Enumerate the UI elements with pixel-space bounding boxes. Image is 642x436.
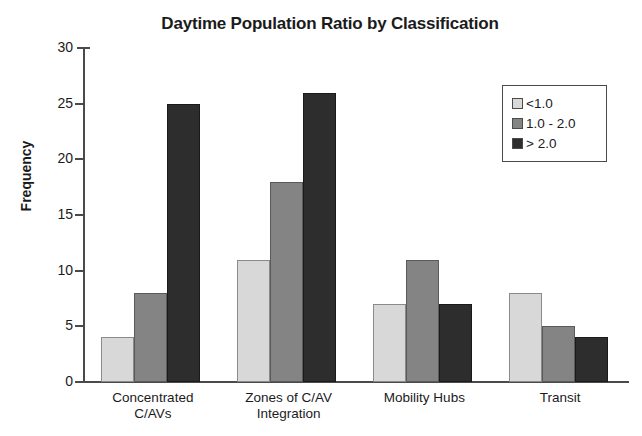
bar <box>439 304 472 382</box>
chart-title: Daytime Population Ratio by Classificati… <box>0 14 642 34</box>
y-tick-label: 10 <box>13 263 73 277</box>
legend-item: <1.0 <box>512 94 598 113</box>
bar <box>270 182 303 382</box>
bar <box>575 337 608 382</box>
y-tick-label: 5 <box>13 318 73 332</box>
y-tick-label: 15 <box>13 207 73 221</box>
bar <box>303 93 336 382</box>
x-axis-label: Transit <box>475 390 642 406</box>
bar <box>373 304 406 382</box>
bar <box>134 293 167 382</box>
legend-swatch-icon <box>512 118 523 129</box>
y-tick-label: 20 <box>13 151 73 165</box>
x-axis-label-line: Transit <box>475 390 642 406</box>
legend-label: 1.0 - 2.0 <box>526 116 576 131</box>
legend-label: <1.0 <box>526 96 553 111</box>
legend-label: > 2.0 <box>526 136 556 151</box>
bar <box>167 104 200 382</box>
bar <box>542 326 575 382</box>
y-axis-title: Frequency <box>18 106 34 246</box>
bar-chart: Daytime Population Ratio by Classificati… <box>0 0 642 436</box>
y-tick-label: 25 <box>13 96 73 110</box>
bar <box>237 260 270 382</box>
bar <box>101 337 134 382</box>
legend-item: > 2.0 <box>512 134 598 153</box>
bar-group <box>237 48 336 382</box>
x-axis-label-line: Integration <box>204 406 374 422</box>
y-tick-label: 30 <box>13 40 73 54</box>
bar <box>509 293 542 382</box>
legend-item: 1.0 - 2.0 <box>512 114 598 133</box>
bar <box>406 260 439 382</box>
bar-group <box>373 48 472 382</box>
legend-swatch-icon <box>512 98 523 109</box>
legend-swatch-icon <box>512 138 523 149</box>
legend: <1.01.0 - 2.0> 2.0 <box>502 85 607 162</box>
y-tick-label: 0 <box>13 374 73 388</box>
bar-group <box>101 48 200 382</box>
